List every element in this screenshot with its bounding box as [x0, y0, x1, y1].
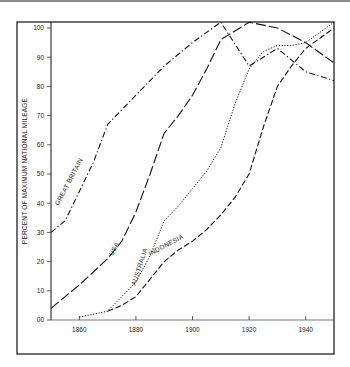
y-tick-group: 00102030405060708090100: [33, 24, 51, 323]
x-tick-label: 1940: [298, 326, 313, 333]
y-tick-label: 90: [37, 54, 45, 61]
x-tick-group: 18601880190019201940: [72, 316, 313, 333]
y-tick-label: 70: [37, 112, 45, 119]
y-axis-title-text: PERCENT OF MAXIMUM NATIONAL MILEAGE: [21, 97, 28, 244]
series-label-usa: USA: [107, 240, 120, 256]
series-line-great-britain: [51, 22, 334, 232]
y-tick-label: 100: [33, 24, 44, 31]
series-group: [51, 22, 334, 317]
line-chart: 00102030405060708090100 1860188019001920…: [0, 0, 350, 367]
series-label-australia: AUSTRALIA: [130, 247, 149, 286]
y-tick-label: 30: [37, 229, 45, 236]
y-tick-label: 80: [37, 83, 45, 90]
x-tick-label: 1900: [185, 326, 200, 333]
x-tick-label: 1860: [72, 326, 87, 333]
series-labels-group: GREAT BRITAINUSAAUSTRALIAINDONESIA: [53, 157, 185, 286]
x-tick-label: 1920: [242, 326, 257, 333]
y-tick-label: 20: [37, 258, 45, 265]
y-tick-label: 50: [37, 170, 45, 177]
y-tick-label: 10: [37, 287, 45, 294]
y-tick-label: 00: [37, 316, 45, 323]
series-line-australia: [79, 22, 334, 317]
y-tick-label: 40: [37, 200, 45, 207]
y-axis-title: PERCENT OF MAXIMUM NATIONAL MILEAGE: [21, 97, 28, 244]
y-tick-label: 60: [37, 141, 45, 148]
series-label-indonesia: INDONESIA: [147, 233, 185, 257]
x-tick-label: 1880: [129, 326, 144, 333]
series-label-great-britain: GREAT BRITAIN: [53, 157, 84, 207]
